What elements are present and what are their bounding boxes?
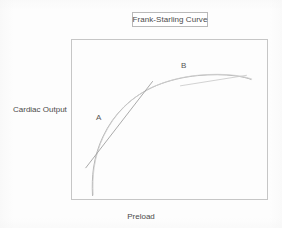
curve-point-label-a: A (96, 114, 101, 122)
curve-point-label-b: B (181, 62, 186, 70)
frank-starling-curve-path-ghost (93, 74, 252, 195)
frank-starling-curve-group (92, 74, 251, 195)
curve-drawing (0, 0, 282, 228)
tangent-line-a (86, 82, 153, 168)
frank-starling-figure: Frank-Starling Curve Cardiac Output A B … (0, 0, 282, 228)
frank-starling-curve-path (92, 75, 251, 196)
